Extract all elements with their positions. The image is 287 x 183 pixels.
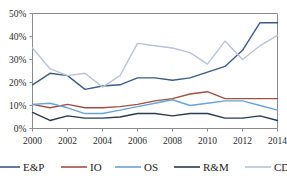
x-tick-label: 2000 — [23, 136, 42, 146]
plot-frame — [33, 14, 278, 129]
x-tick-label: 2004 — [93, 136, 112, 146]
x-axis-tick-labels: 20002002200420062008201020122014 — [23, 136, 287, 146]
x-tick-label: 2014 — [268, 136, 287, 146]
chart-legend: E&PIOOSR&MCD — [0, 161, 287, 173]
legend-label-cd: CD — [274, 161, 287, 173]
y-tick-label: 0% — [14, 124, 27, 134]
series-line-r-m — [33, 112, 278, 120]
legend-label-e-p: E&P — [23, 161, 44, 173]
x-tick-label: 2008 — [163, 136, 182, 146]
series-line-e-p — [33, 23, 278, 90]
x-tick-label: 2002 — [58, 136, 77, 146]
y-tick-label: 30% — [9, 55, 27, 65]
x-tick-label: 2006 — [128, 136, 147, 146]
x-tick-label: 2010 — [198, 136, 217, 146]
y-tick-label: 10% — [9, 101, 27, 111]
series-line-cd — [33, 35, 278, 87]
plot-border — [33, 14, 278, 129]
line-chart: 0%10%20%30%40%50% 2000200220042006200820… — [0, 0, 287, 183]
legend-label-r-m: R&M — [203, 161, 229, 173]
legend-label-os: OS — [144, 161, 158, 173]
y-axis-tick-labels: 0%10%20%30%40%50% — [9, 9, 27, 134]
y-tick-label: 40% — [9, 32, 27, 42]
legend-label-io: IO — [90, 161, 102, 173]
y-tick-label: 50% — [9, 9, 27, 19]
series-line-io — [33, 92, 278, 108]
y-tick-label: 20% — [9, 78, 27, 88]
data-series-group — [33, 23, 278, 121]
series-line-os — [33, 100, 278, 114]
x-tick-label: 2012 — [233, 136, 252, 146]
chart-canvas: 0%10%20%30%40%50% 2000200220042006200820… — [0, 0, 287, 183]
